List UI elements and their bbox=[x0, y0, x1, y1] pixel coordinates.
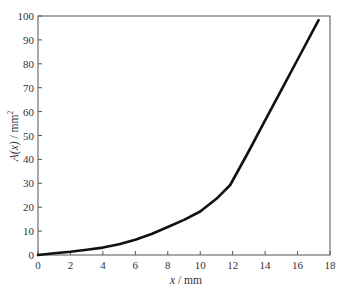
y-tick-label: 20 bbox=[23, 201, 35, 213]
y-tick-label: 100 bbox=[18, 10, 35, 22]
x-tick-label: 12 bbox=[227, 259, 238, 271]
y-tick-label: 70 bbox=[23, 82, 35, 94]
y-tick-label: 80 bbox=[23, 58, 35, 70]
x-axis-label: x / mm bbox=[169, 274, 202, 286]
chart: 0102030405060708090100 024681012141618 x… bbox=[0, 0, 344, 293]
x-tick-label: 2 bbox=[68, 259, 74, 271]
y-tick-label: 40 bbox=[23, 153, 35, 165]
y-tick-label: 50 bbox=[23, 130, 35, 142]
y-tick-label: 90 bbox=[23, 34, 35, 46]
x-tick-label: 18 bbox=[325, 259, 337, 271]
y-axis-label: A(x) / mm2 bbox=[6, 111, 21, 163]
y-tick-label: 10 bbox=[23, 225, 35, 237]
x-tick-label: 6 bbox=[133, 259, 139, 271]
x-tick-label: 8 bbox=[165, 259, 171, 271]
x-tick-label: 10 bbox=[195, 259, 207, 271]
x-axis-ticks: 024681012141618 bbox=[35, 251, 336, 271]
data-series-line bbox=[38, 20, 319, 255]
y-tick-label: 30 bbox=[23, 177, 35, 189]
x-tick-label: 4 bbox=[100, 259, 106, 271]
x-tick-label: 0 bbox=[35, 259, 41, 271]
x-tick-label: 16 bbox=[292, 259, 304, 271]
y-tick-label: 0 bbox=[29, 249, 35, 261]
x-tick-label: 14 bbox=[260, 259, 272, 271]
y-tick-label: 60 bbox=[23, 106, 35, 118]
